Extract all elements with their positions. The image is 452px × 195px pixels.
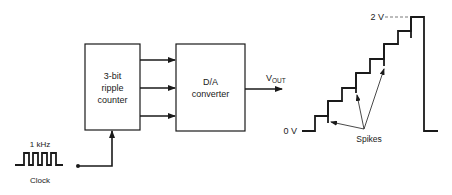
clock-input-arrow <box>78 131 112 166</box>
spike-pointer-arrow-3 <box>364 69 384 129</box>
vout-output: VOUT <box>245 73 286 89</box>
clock-frequency-label: 1 kHz <box>30 140 50 149</box>
counter-label-line3: counter <box>97 95 127 105</box>
counter-label-line1: 3-bit <box>104 71 122 81</box>
counter-output-bits <box>140 60 175 116</box>
dac-block: D/A converter <box>176 44 245 131</box>
counter-label-line2: ripple <box>101 83 123 93</box>
dac-label-line2: converter <box>192 89 230 99</box>
dac-label-line1: D/A <box>203 77 218 87</box>
vout-label: VOUT <box>266 73 286 84</box>
ripple-counter-block: 3-bit ripple counter <box>85 44 140 130</box>
clock-waveform-icon <box>15 153 63 165</box>
clock-label: Clock <box>30 176 51 185</box>
spike-pointer-arrow-1 <box>331 122 364 129</box>
zero-volt-label: 0 V <box>283 126 297 136</box>
spikes-label: Spikes <box>356 134 382 144</box>
dac-staircase-diagram: 3-bit ripple counter D/A converter VOUT … <box>0 0 452 195</box>
clock-wire <box>76 131 112 168</box>
staircase-waveform: 0 V 2 V Spikes <box>283 12 438 144</box>
spike-pointer-arrow-2 <box>357 95 364 129</box>
clock-source: 1 kHz Clock <box>15 140 63 185</box>
staircase-trace <box>302 17 438 131</box>
two-volt-label: 2 V <box>370 12 384 22</box>
